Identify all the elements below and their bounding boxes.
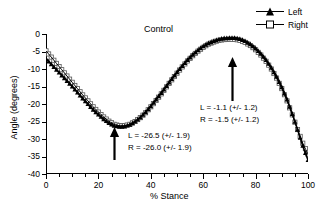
x-tick-label: 100 (295, 181, 321, 190)
x-tick-label: 60 (190, 181, 216, 190)
x-axis-label: % Stance (150, 192, 189, 201)
legend-item-left-label: Left (288, 8, 302, 17)
y-tick-label: -30 (14, 135, 40, 144)
y-tick-label: -5 (14, 47, 40, 56)
x-axis-minor-ticks (60, 174, 296, 177)
y-tick-label: -35 (14, 152, 40, 161)
chart-title: Control (144, 25, 173, 34)
x-tick-label: 20 (85, 181, 111, 190)
trough-annotation-left-line: L = -26.5 (+/- 1.9) (128, 132, 190, 140)
legend-open-square-icon (267, 21, 274, 28)
chart-figure: Control % Stance Angle (degrees) 0-5-10-… (0, 0, 332, 208)
y-tick-label: -25 (14, 117, 40, 126)
peak-annotation-left-line: L = -1.1 (+/- 1.2) (200, 104, 258, 112)
y-tick-label: -10 (14, 65, 40, 74)
legend-marks (256, 8, 284, 29)
axis-lines (46, 34, 308, 174)
y-axis-ticks (42, 35, 46, 175)
x-tick-label: 40 (138, 181, 164, 190)
trough-annotation-right-line: R = -26.0 (+/- 1.9) (128, 144, 192, 152)
y-tick-label: -40 (14, 170, 40, 179)
annotation-arrow-head (228, 57, 237, 67)
y-tick-label: -15 (14, 82, 40, 91)
x-tick-label: 80 (243, 181, 269, 190)
x-tick-label: 0 (33, 181, 59, 190)
y-tick-label: -20 (14, 100, 40, 109)
peak-annotation-right-line: R = -1.5 (+/- 1.2) (200, 116, 259, 124)
legend-item-right-label: Right (288, 21, 308, 30)
y-tick-label: 0 (14, 30, 40, 39)
